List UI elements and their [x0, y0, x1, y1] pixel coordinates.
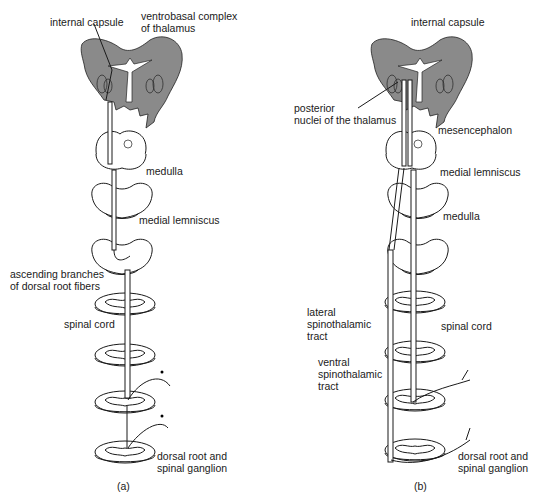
label-b-posterior-nuclei: posterior nuclei of the thalamus — [294, 102, 396, 126]
label-b-dorsal-root-line1: dorsal root and — [458, 450, 528, 462]
label-a-ascending-branches: ascending branches of dorsal root fibers — [10, 268, 104, 292]
panel-b-drawing — [358, 37, 472, 463]
label-a-medulla: medulla — [146, 165, 183, 177]
label-b-posterior-line2: nuclei of the thalamus — [294, 114, 396, 126]
label-b-lateral-spinothalamic: lateral spinothalamic tract — [307, 306, 371, 342]
panel-a-drawing — [81, 24, 182, 463]
label-b-lateral-line1: lateral — [307, 306, 371, 318]
label-a-internal-capsule: internal capsule — [50, 16, 124, 28]
label-a-medial-lemniscus: medial lemniscus — [139, 214, 220, 226]
label-b-ventral-line1: ventral — [318, 356, 382, 368]
label-b-medial-lemniscus: medial lemniscus — [440, 166, 521, 178]
label-b-internal-capsule: internal capsule — [411, 16, 485, 28]
label-a-spinal-cord: spinal cord — [64, 318, 115, 330]
label-a-dorsal-root: dorsal root and spinal ganglion — [157, 450, 227, 474]
label-a-ventrobasal-line2: of thalamus — [141, 22, 237, 34]
caption-a: (a) — [117, 480, 130, 492]
caption-b: (b) — [414, 480, 427, 492]
label-b-dorsal-root-line2: spinal ganglion — [458, 462, 528, 474]
diagram-canvas — [0, 0, 534, 504]
label-a-dorsal-root-line1: dorsal root and — [157, 450, 227, 462]
label-b-medulla: medulla — [443, 210, 480, 222]
label-a-ventrobasal: ventrobasal complex of thalamus — [141, 10, 237, 34]
label-b-lateral-line3: tract — [307, 330, 371, 342]
label-b-ventral-spinothalamic: ventral spinothalamic tract — [318, 356, 382, 392]
label-b-dorsal-root: dorsal root and spinal ganglion — [458, 450, 528, 474]
label-b-spinal-cord: spinal cord — [441, 320, 492, 332]
label-a-dorsal-root-line2: spinal ganglion — [157, 462, 227, 474]
label-b-posterior-line1: posterior — [294, 102, 396, 114]
label-b-ventral-line2: spinothalamic — [318, 368, 382, 380]
label-a-ascending-line2: of dorsal root fibers — [10, 280, 104, 292]
label-b-mesencephalon: mesencephalon — [438, 124, 512, 136]
label-b-ventral-line3: tract — [318, 380, 382, 392]
label-a-ventrobasal-line1: ventrobasal complex — [141, 10, 237, 22]
label-b-lateral-line2: spinothalamic — [307, 318, 371, 330]
label-a-ascending-line1: ascending branches — [10, 268, 104, 280]
